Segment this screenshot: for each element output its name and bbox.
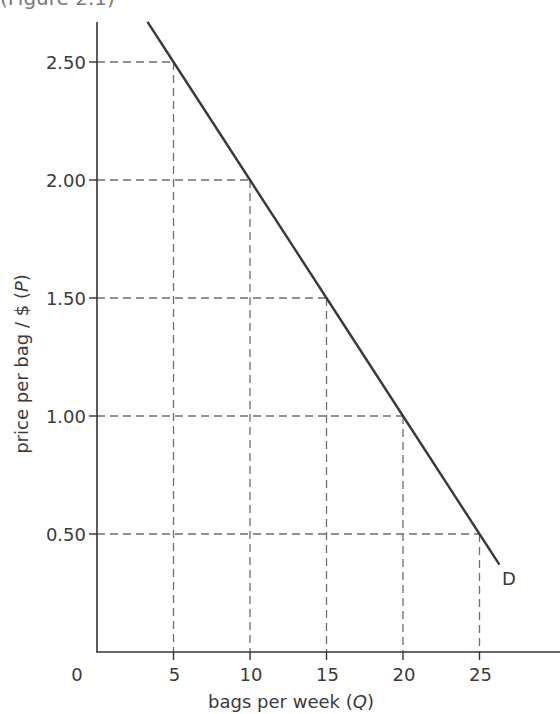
demand-chart: (Figure 2.1) 0.501.001.502.002.505101520… — [0, 0, 560, 714]
x-tick-label: 5 — [169, 664, 180, 685]
y-tick-label: 2.00 — [46, 170, 86, 191]
demand-curve-line — [148, 22, 500, 565]
y-axis-title-var: P — [11, 281, 32, 292]
axis-ticks: 0.501.001.502.002.50510152025 — [46, 52, 492, 686]
curve-label-d: D — [502, 568, 516, 589]
y-tick-label: 1.00 — [46, 406, 86, 427]
y-tick-label: 2.50 — [46, 52, 86, 73]
y-axis-title-prefix: price per bag / $ ( — [11, 292, 32, 454]
x-tick-label: 20 — [393, 664, 416, 685]
x-tick-label: 25 — [469, 664, 492, 685]
dashed-guide-lines — [97, 62, 480, 652]
x-tick-label: 10 — [240, 664, 263, 685]
cropped-figure-caption: (Figure 2.1) — [0, 0, 115, 10]
y-tick-label: 1.50 — [46, 288, 86, 309]
x-axis-title-suffix: ) — [367, 691, 374, 712]
axes — [96, 22, 560, 652]
y-tick-label: 0.50 — [46, 524, 86, 545]
x-axis-title: bags per week (Q) — [208, 691, 374, 712]
chart-canvas: 0.501.001.502.002.50510152025 0 bags per… — [0, 0, 560, 714]
x-tick-label: 15 — [316, 664, 339, 685]
y-axis-title-suffix: ) — [11, 274, 32, 281]
origin-label: 0 — [71, 664, 82, 685]
axis-labels: 0 bags per week (Q) price per bag / $ (P… — [11, 274, 516, 712]
y-axis-title: price per bag / $ (P) — [11, 274, 32, 454]
x-axis-title-var: Q — [353, 691, 367, 712]
x-axis-title-prefix: bags per week ( — [208, 691, 353, 712]
demand-curve — [148, 22, 500, 565]
